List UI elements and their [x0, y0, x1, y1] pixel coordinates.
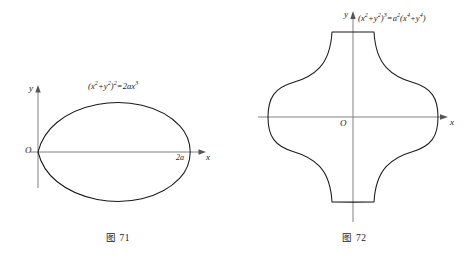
figure-page: (x2+y2)2=2ax3 y x O 2a 图 71: [0, 0, 473, 260]
figure-71: (x2+y2)2=2ax3 y x O 2a 图 71: [0, 0, 236, 260]
figure-71-plot: [0, 0, 236, 230]
figure-71-equation: (x2+y2)2=2ax3: [88, 80, 138, 91]
figure-72-x-axis-label: x: [450, 117, 454, 127]
figure-72-plot: [236, 0, 473, 230]
figure-71-origin-label: O: [25, 145, 32, 155]
figure-71-caption: 图 71: [0, 230, 236, 244]
figure-71-y-axis-label: y: [29, 83, 33, 93]
figure-72-equation: (x2+y2)3=a2(x4+y4): [358, 12, 426, 23]
figure-72-caption: 图 72: [236, 230, 473, 244]
figure-72-y-axis-label: y: [344, 9, 348, 19]
figure-71-x-axis-label: x: [206, 152, 210, 162]
figure-71-tick-2a: 2a: [176, 153, 184, 162]
figure-71-y-axis: [35, 85, 40, 188]
figure-72-origin-label: O: [340, 118, 347, 128]
figure-72: (x2+y2)3=a2(x4+y4) y x O 图 72: [236, 0, 473, 260]
